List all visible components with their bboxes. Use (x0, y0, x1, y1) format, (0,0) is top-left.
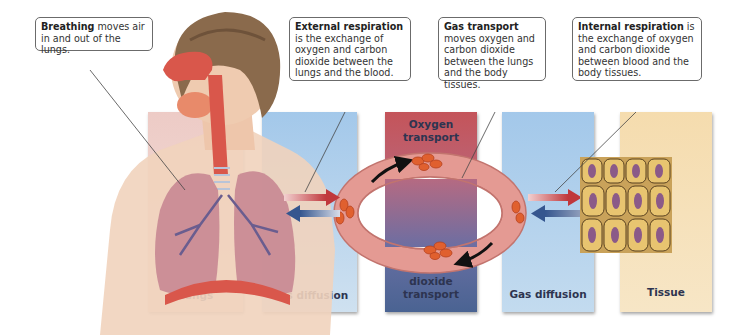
external-respiration-callout: External respiration is the exchange of … (289, 17, 411, 81)
gas-transport-term: Gas transport (444, 21, 519, 32)
breathing-term: Breathing (41, 21, 94, 32)
internal-respiration-term: Internal respiration (578, 21, 684, 32)
co2-arrow-right (531, 205, 585, 222)
breathing-callout: Breathing moves air in and out of the lu… (35, 17, 153, 51)
internal-respiration-callout: Internal respiration is the exchange of … (572, 17, 702, 81)
gas-transport-callout: Gas transport moves oxygen and carbon di… (438, 17, 546, 81)
external-respiration-term: External respiration (295, 21, 403, 32)
tissue-cells (580, 157, 672, 253)
external-respiration-description: is the exchange of oxygen and carbon dio… (295, 33, 394, 79)
